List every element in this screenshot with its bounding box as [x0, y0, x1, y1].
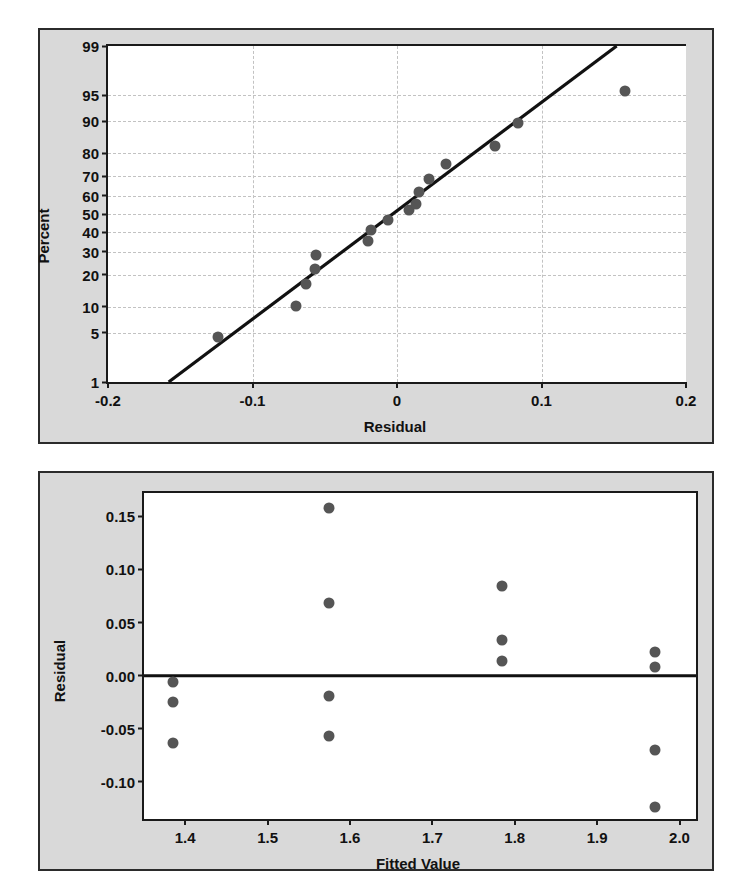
- x-axis-tick-label: 1.4: [175, 829, 196, 846]
- x-axis-tick-mark: [514, 819, 516, 825]
- residuals-versus-fits-panel: Residual 0.150.100.050.00-0.05-0.10 1.41…: [38, 471, 714, 871]
- x-axis-tick-mark: [267, 819, 269, 825]
- x-axis-tick-mark: [107, 382, 109, 388]
- data-point: [365, 225, 376, 236]
- data-point: [383, 215, 394, 226]
- normal-probability-plot-panel: Percent 151020304050607080909599 -0.2-0.…: [38, 28, 714, 444]
- data-point: [649, 662, 660, 673]
- y-axis-tick-label: 80: [82, 145, 108, 162]
- data-point: [311, 250, 322, 261]
- y-axis-tick-label: 70: [82, 168, 108, 185]
- data-point: [167, 697, 178, 708]
- y-axis-tick-label: 20: [82, 266, 108, 283]
- y-axis-tick-label: 0.05: [106, 614, 144, 631]
- data-point: [649, 802, 660, 813]
- data-point: [309, 263, 320, 274]
- data-point: [413, 186, 424, 197]
- y-axis-tick-label: 99: [82, 38, 108, 55]
- y-axis-tick-label: 90: [82, 113, 108, 130]
- normal-plot-area: 151020304050607080909599 -0.2-0.100.10.2: [106, 44, 686, 384]
- data-point: [423, 174, 434, 185]
- y-axis-tick-label: -0.05: [101, 720, 144, 737]
- reference-line: [169, 46, 617, 382]
- data-point: [513, 118, 524, 129]
- x-axis-tick-label: 1.7: [422, 829, 443, 846]
- x-axis-tick-label: 1.5: [257, 829, 278, 846]
- y-axis-tick-label: 0.10: [106, 561, 144, 578]
- data-point: [497, 655, 508, 666]
- x-axis-tick-mark: [679, 819, 681, 825]
- x-axis-title-residual: Residual: [106, 418, 684, 435]
- y-axis-tick-label: 5: [91, 324, 108, 341]
- x-axis-tick-label: 0.1: [531, 392, 552, 409]
- data-point: [300, 279, 311, 290]
- data-point: [649, 647, 660, 658]
- x-axis-tick-mark: [596, 819, 598, 825]
- x-axis-tick-label: -0.1: [240, 392, 266, 409]
- data-point: [324, 690, 335, 701]
- y-axis-tick-label: 50: [82, 206, 108, 223]
- x-axis-tick-mark: [184, 819, 186, 825]
- data-point: [290, 300, 301, 311]
- x-axis-tick-label: 0.2: [676, 392, 697, 409]
- data-point: [620, 86, 631, 97]
- data-point: [212, 331, 223, 342]
- y-axis-tick-label: 1: [91, 374, 108, 391]
- versus-plot-area: 0.150.100.050.00-0.05-0.10 1.41.51.61.71…: [142, 491, 698, 821]
- y-axis-tick-label: 60: [82, 187, 108, 204]
- data-point: [497, 634, 508, 645]
- zero-reference-line-layer: [144, 493, 696, 819]
- y-axis-tick-label: -0.10: [101, 773, 144, 790]
- reference-line-layer: [108, 46, 686, 382]
- data-point: [649, 744, 660, 755]
- y-axis-tick-label: 10: [82, 298, 108, 315]
- data-point: [324, 731, 335, 742]
- x-axis-tick-mark: [685, 382, 687, 388]
- y-axis-tick-label: 0.00: [106, 667, 144, 684]
- x-axis-tick-label: -0.2: [95, 392, 121, 409]
- x-axis-tick-label: 1.6: [340, 829, 361, 846]
- x-axis-tick-mark: [252, 382, 254, 388]
- y-axis-tick-label: 95: [82, 87, 108, 104]
- y-axis-title-residual: Residual: [51, 640, 68, 703]
- y-axis-tick-label: 0.15: [106, 508, 144, 525]
- x-axis-tick-label: 2.0: [669, 829, 690, 846]
- y-axis-title-percent: Percent: [35, 208, 52, 263]
- data-point: [324, 598, 335, 609]
- data-point: [167, 737, 178, 748]
- data-point: [490, 141, 501, 152]
- x-axis-tick-mark: [541, 382, 543, 388]
- x-axis-tick-mark: [431, 819, 433, 825]
- data-point: [363, 235, 374, 246]
- data-point: [167, 677, 178, 688]
- y-axis-tick-label: 30: [82, 243, 108, 260]
- x-axis-tick-mark: [349, 819, 351, 825]
- data-point: [497, 581, 508, 592]
- x-axis-tick-label: 1.9: [587, 829, 608, 846]
- x-axis-title-fitted-value: Fitted Value: [142, 855, 694, 872]
- x-axis-tick-mark: [396, 382, 398, 388]
- x-axis-tick-label: 0: [393, 392, 401, 409]
- y-axis-tick-label: 40: [82, 224, 108, 241]
- data-point: [324, 502, 335, 513]
- data-point: [441, 159, 452, 170]
- x-axis-tick-label: 1.8: [504, 829, 525, 846]
- data-point: [410, 199, 421, 210]
